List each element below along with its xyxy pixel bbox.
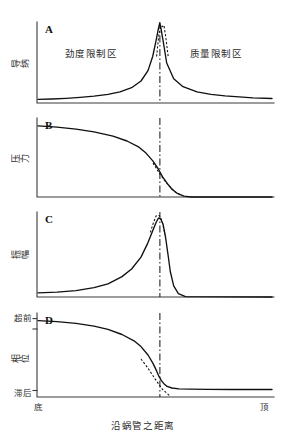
panel-c-letter: C bbox=[45, 213, 53, 225]
figure-background bbox=[0, 0, 281, 446]
xaxis-base-tick-label: 底 bbox=[34, 402, 43, 412]
panel-a-letter: A bbox=[45, 23, 53, 35]
stiffness-region-label: 劲度限制区 bbox=[65, 48, 117, 59]
panel-b-letter: B bbox=[45, 119, 53, 131]
xaxis-caption: 沿蜗管之距离 bbox=[111, 420, 175, 431]
mass-region-label: 质量限制区 bbox=[190, 48, 242, 59]
cochlear-mechanics-figure: A 导纳 劲度限制区 质量限制区 B 压力 C 振幅 D 相位 超前 滞后 bbox=[0, 0, 281, 446]
panel-a-ylabel: 导纳 bbox=[11, 58, 31, 68]
phase-lead-tick-label: 超前 bbox=[14, 313, 32, 323]
figure-canvas: A 导纳 劲度限制区 质量限制区 B 压力 C 振幅 D 相位 超前 滞后 bbox=[0, 0, 281, 446]
panel-c-ylabel: 振幅 bbox=[10, 249, 31, 259]
phase-lag-tick-label: 滞后 bbox=[14, 388, 32, 398]
xaxis-apex-tick-label: 顶 bbox=[260, 402, 269, 412]
panel-d-ylabel: 相位 bbox=[10, 353, 31, 363]
panel-b-ylabel: 压力 bbox=[11, 153, 31, 163]
panel-d-letter: D bbox=[45, 314, 53, 326]
